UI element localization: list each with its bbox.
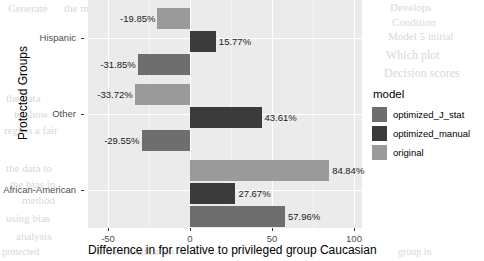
ghost-text-5: Which plot (386, 48, 440, 63)
legend-entry-original: original (372, 143, 470, 161)
y-tick-mark-hispanic (81, 38, 84, 39)
x-tick-mark--50 (108, 228, 109, 231)
bar-hispanic-optimized_manual (190, 31, 216, 52)
chart-screenshot: Generatethe modelDevelopsConditionModel … (0, 0, 484, 261)
ghost-text-3: Condition (392, 16, 436, 28)
legend-entry-optimized_J_stat: optimized_J_stat (372, 105, 470, 123)
legend-swatch-optimized_J_stat (372, 107, 387, 122)
legend-entry-optimized_manual: optimized_manual (372, 124, 470, 142)
bar-hispanic-original (157, 8, 190, 29)
x-axis-title: Difference in fpr relative to privileged… (88, 243, 362, 257)
ghost-text-6: Decision scores (384, 66, 460, 81)
x-tick-mark-50 (272, 228, 273, 231)
plot-panel (88, 0, 362, 228)
legend-entries: optimized_J_statoptimized_manualoriginal (372, 105, 470, 161)
legend-label-optimized_J_stat: optimized_J_stat (393, 109, 464, 120)
bar-african-american-original (190, 160, 329, 181)
bar-other-optimized_manual (190, 107, 262, 128)
legend-swatch-optimized_manual (372, 126, 387, 141)
legend-label-optimized_manual: optimized_manual (393, 128, 470, 139)
y-tick-label-other: Other (52, 108, 76, 119)
legend-swatch-original (372, 145, 387, 160)
bar-other-optimized_J_stat (142, 130, 190, 151)
gridline-y-Hispanic (88, 38, 362, 39)
bar-african-american-optimized_J_stat (190, 206, 285, 227)
bar-other-original (135, 84, 190, 105)
y-tick-label-hispanic: Hispanic (40, 32, 76, 43)
y-tick-label-african-american: African-American (3, 184, 76, 195)
y-tick-mark-african-american (81, 190, 84, 191)
bar-african-american-optimized_manual (190, 183, 235, 204)
x-tick-mark-0 (190, 228, 191, 231)
legend-label-original: original (393, 147, 424, 158)
ghost-text-2: Develops (390, 1, 432, 13)
x-tick-mark-100 (354, 228, 355, 231)
ghost-text-4: Model 5 initial (388, 30, 453, 42)
y-tick-mark-other (81, 114, 84, 115)
y-axis-ticks: HispanicOtherAfrican-American (0, 0, 84, 228)
legend: model optimized_J_statoptimized_manualor… (372, 88, 470, 162)
legend-title: model (373, 88, 470, 100)
bar-hispanic-optimized_J_stat (138, 54, 190, 75)
